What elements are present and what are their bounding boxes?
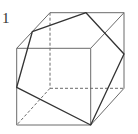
cube-edge-bottom-right-depth (91, 88, 124, 125)
cube-hidden-edge-depth (17, 88, 50, 125)
cube-section-diagram (0, 0, 138, 134)
cube-front-face (17, 48, 91, 125)
cube-edge-top-right-depth (91, 13, 124, 49)
cube-edge-top-left-depth (17, 13, 50, 49)
